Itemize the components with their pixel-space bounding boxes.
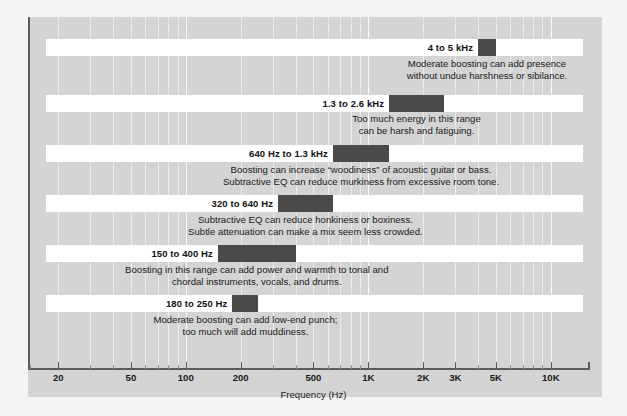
band-bar bbox=[218, 245, 296, 262]
band-description-line: Subtractive EQ can reduce honkiness or b… bbox=[0, 214, 619, 226]
x-axis-tick-label: 5K bbox=[490, 372, 502, 383]
x-axis-tick bbox=[58, 362, 59, 369]
band-description-line: Boosting in this range can add power and… bbox=[0, 264, 570, 276]
x-axis-minor-tick bbox=[178, 365, 179, 369]
x-axis-tick-label: 20 bbox=[53, 372, 64, 383]
x-axis-minor-tick bbox=[328, 365, 329, 369]
band-description-line: chordal instruments, vocals, and drums. bbox=[0, 276, 570, 288]
band-bar bbox=[333, 145, 389, 162]
x-axis-minor-tick bbox=[145, 365, 146, 369]
band-label: 640 Hz to 1.3 kHz bbox=[46, 145, 328, 162]
band-description-line: Moderate boosting can add presence bbox=[174, 58, 627, 70]
band-description: Moderate boosting can add presencewithou… bbox=[174, 58, 627, 81]
x-axis-minor-tick bbox=[351, 365, 352, 369]
band-description-line: Subtractive EQ can reduce murkiness from… bbox=[48, 176, 627, 188]
band-description-line: without undue harshness or sibilance. bbox=[174, 70, 627, 82]
x-axis-minor-tick bbox=[30, 365, 31, 369]
x-axis-tick bbox=[423, 362, 424, 369]
x-axis-tick-label: 200 bbox=[233, 372, 249, 383]
x-axis-minor-tick bbox=[533, 365, 534, 369]
band-bar bbox=[232, 295, 258, 312]
x-axis-tick bbox=[313, 362, 314, 369]
x-axis-minor-tick bbox=[523, 365, 524, 369]
x-axis-minor-tick bbox=[158, 365, 159, 369]
x-axis-tick bbox=[368, 362, 369, 369]
x-axis-tick bbox=[551, 362, 552, 369]
band-label: 1.3 to 2.6 kHz bbox=[46, 95, 384, 112]
x-axis-minor-tick bbox=[273, 365, 274, 369]
band-description: Boosting in this range can add power and… bbox=[0, 264, 570, 287]
x-axis-tick-label: 100 bbox=[178, 372, 194, 383]
band-description-line: Too much energy in this range bbox=[103, 113, 627, 125]
x-axis-tick-label: 500 bbox=[305, 372, 321, 383]
x-axis-tick bbox=[455, 362, 456, 369]
x-axis-minor-tick bbox=[90, 365, 91, 369]
x-axis-right-endcap bbox=[588, 362, 590, 370]
x-axis-tick-label: 10K bbox=[542, 372, 560, 383]
x-axis-tick-label: 2K bbox=[417, 372, 429, 383]
x-axis-minor-tick bbox=[168, 365, 169, 369]
band-description-line: too much will add muddiness. bbox=[0, 326, 559, 338]
band-label: 150 to 400 Hz bbox=[46, 245, 213, 262]
band-description: Moderate boosting can add low-end punch;… bbox=[0, 314, 559, 337]
x-axis-tick bbox=[131, 362, 132, 369]
band-description-line: Moderate boosting can add low-end punch; bbox=[0, 314, 559, 326]
x-axis-minor-tick bbox=[478, 365, 479, 369]
band-bar bbox=[389, 95, 444, 112]
x-axis-tick bbox=[496, 362, 497, 369]
x-axis-tick bbox=[241, 362, 242, 369]
band-label: 180 to 250 Hz bbox=[46, 295, 227, 312]
band-description-line: Subtle attenuation can make a mix seem l… bbox=[0, 226, 619, 238]
x-axis-minor-tick bbox=[360, 365, 361, 369]
band-bar bbox=[478, 39, 496, 56]
x-axis-tick-label: 3K bbox=[449, 372, 461, 383]
x-axis-minor-tick bbox=[510, 365, 511, 369]
x-axis-minor-tick bbox=[542, 365, 543, 369]
band-bar bbox=[278, 195, 333, 212]
x-axis-tick bbox=[186, 362, 187, 369]
band-description-line: can be harsh and fatiguing. bbox=[103, 125, 627, 137]
band-description: Too much energy in this rangecan be hars… bbox=[103, 113, 627, 136]
x-axis-tick-label: 50 bbox=[126, 372, 137, 383]
band-description: Boosting can increase “woodiness” of aco… bbox=[48, 164, 627, 187]
x-axis-tick-label: 1K bbox=[362, 372, 374, 383]
figure-page: 4 to 5 kHzModerate boosting can add pres… bbox=[0, 0, 627, 416]
x-axis-minor-tick bbox=[296, 365, 297, 369]
x-axis-minor-tick bbox=[340, 365, 341, 369]
band-label: 4 to 5 kHz bbox=[46, 39, 473, 56]
x-axis-label: Frequency (Hz) bbox=[0, 389, 627, 400]
band-description-line: Boosting can increase “woodiness” of aco… bbox=[48, 164, 627, 176]
band-description: Subtractive EQ can reduce honkiness or b… bbox=[0, 214, 619, 237]
band-label: 320 to 640 Hz bbox=[46, 195, 273, 212]
x-axis-minor-tick bbox=[113, 365, 114, 369]
